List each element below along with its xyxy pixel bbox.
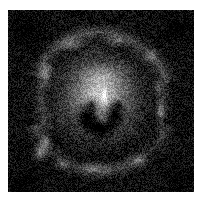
astronomical-image [8, 10, 194, 192]
screenshot-root: Noisy grayscale astronomical field dark … [0, 0, 201, 201]
image-canvas [8, 10, 194, 192]
